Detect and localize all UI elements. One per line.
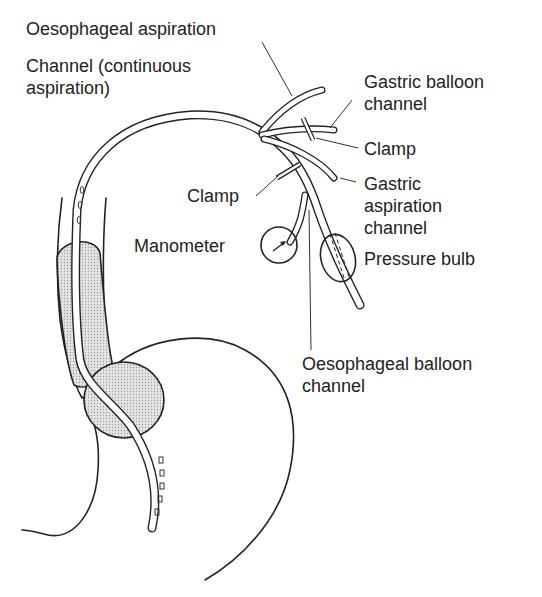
label-gastric-aspiration-line1: Gastric <box>364 174 421 194</box>
tube-diagram: Oesophageal aspiration Channel (continuo… <box>0 0 542 597</box>
label-manometer: Manometer <box>134 236 225 256</box>
label-channel-line2: aspiration) <box>26 78 110 98</box>
label-gastric-balloon-line2: channel <box>364 94 427 114</box>
label-oesophageal-aspiration: Oesophageal aspiration <box>26 19 216 39</box>
label-gastric-aspiration-line2: aspiration <box>364 196 442 216</box>
label-gastric-aspiration-line3: channel <box>364 218 427 238</box>
main-tube <box>76 115 360 528</box>
label-clamp-left: Clamp <box>187 186 239 206</box>
label-oesophageal-balloon-line1: Oesophageal balloon <box>302 354 472 374</box>
label-oesophageal-balloon-line2: channel <box>302 376 365 396</box>
label-gastric-balloon-line1: Gastric balloon <box>364 72 484 92</box>
label-channel-line1: Channel (continuous <box>26 56 191 76</box>
label-pressure-bulb: Pressure bulb <box>364 249 475 269</box>
gastric-balloon <box>84 362 164 438</box>
label-clamp-right: Clamp <box>364 139 416 159</box>
stomach-outline <box>22 338 294 580</box>
manometer-branch <box>290 195 305 242</box>
gastric-balloon-branch <box>262 129 334 135</box>
